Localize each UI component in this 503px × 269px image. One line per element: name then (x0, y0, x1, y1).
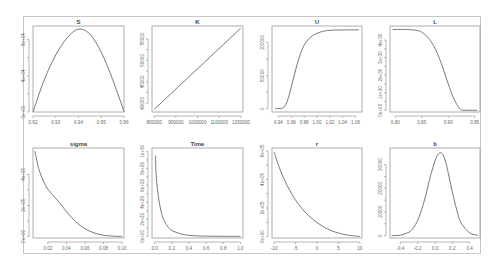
x-tick-label: 0.2 (449, 246, 456, 251)
x-tick-label: 0.96 (287, 120, 296, 125)
y-tick-label: 2e+05 (260, 201, 265, 214)
panel-u: U0.940.960.981.001.021.041.0605000010000… (260, 19, 362, 126)
panel-title: b (433, 141, 437, 147)
y-tick-label: 30000 (378, 158, 383, 171)
x-tick-label: 0.0 (151, 246, 158, 251)
x-tick-label: 0.96 (120, 120, 129, 125)
y-tick-label: 20000 (378, 181, 383, 194)
y-tick-label: 4e+05 (21, 167, 26, 180)
x-tick-label: 0.06 (81, 246, 90, 251)
series-line-s (33, 29, 124, 112)
y-tick-label: 40000 (140, 97, 145, 110)
y-tick-label: 2e+30 (378, 68, 383, 81)
series-line-sigma (35, 151, 122, 236)
panel-sigma: sigma0.020.040.060.080.100e+002e+054e+05 (21, 141, 127, 252)
x-tick-label: 800000 (146, 120, 162, 125)
panel-b: b-0.4-0.20.00.20.40100002000030000 (378, 141, 480, 252)
x-tick-label: 0.2 (169, 246, 176, 251)
y-tick-label: 8e+04 (21, 33, 26, 46)
panel-s: S0.920.930.940.950.960e+004e+048e+04 (21, 19, 129, 126)
y-tick-label: 6e+29 (140, 178, 145, 191)
series-line-l (393, 29, 478, 110)
x-tick-label: -10 (271, 246, 278, 251)
panel-title: S (76, 19, 80, 25)
x-tick-label: 0.93 (51, 120, 60, 125)
y-tick-label: 55000 (140, 32, 145, 45)
x-tick-label: 0.10 (118, 246, 127, 251)
series-line-k (154, 28, 241, 109)
x-tick-label: 0.04 (62, 246, 71, 251)
panel-title: r (316, 141, 319, 147)
x-tick-label: 1.02 (325, 120, 334, 125)
x-tick-label: 10 (357, 246, 363, 251)
plot-box (152, 148, 243, 238)
series-line-u (275, 30, 359, 109)
x-tick-label: 0.98 (300, 120, 309, 125)
x-tick-label: 0.4 (466, 246, 473, 251)
y-tick-label: 4e+05 (260, 173, 265, 186)
plot-box (272, 148, 362, 238)
panel-time: Time0.00.20.40.60.81.00e+002e+294e+296e+… (140, 141, 244, 252)
panel-r: r-10-505100e+002e+054e+056e+05 (260, 141, 363, 252)
panel-title: sigma (70, 141, 88, 147)
panel-title: K (195, 19, 200, 25)
x-tick-label: 0.6 (203, 246, 210, 251)
x-tick-label: 0.95 (97, 120, 106, 125)
panel-l: L0.800.850.900.950e+001e+302e+303e+304e+… (378, 19, 480, 126)
y-tick-label: 0 (260, 107, 265, 110)
y-tick-label: 50000 (140, 54, 145, 67)
series-line-time (155, 156, 240, 237)
x-tick-label: 0.08 (99, 246, 108, 251)
y-tick-label: 0e+00 (378, 103, 383, 116)
x-tick-label: 0.02 (43, 246, 52, 251)
x-tick-label: -0.4 (396, 246, 404, 251)
x-tick-label: 0.8 (220, 246, 227, 251)
x-tick-label: 0.94 (274, 120, 283, 125)
x-tick-label: 1100000 (210, 120, 228, 125)
x-tick-label: 0.90 (444, 120, 453, 125)
x-tick-label: 0.92 (29, 120, 38, 125)
y-tick-label: 4e+29 (140, 195, 145, 208)
panel-k: K800000900000100000011000001200000400004… (140, 19, 250, 126)
y-tick-label: 6e+05 (260, 144, 265, 157)
x-tick-label: 5 (337, 246, 340, 251)
y-tick-label: 100000 (260, 34, 265, 50)
x-tick-label: 0.0 (432, 246, 439, 251)
x-tick-label: 1000000 (189, 120, 207, 125)
y-tick-label: 0e+00 (21, 230, 26, 243)
x-tick-label: 1.04 (338, 120, 347, 125)
y-tick-label: 0e+00 (21, 105, 26, 118)
x-tick-label: -5 (294, 246, 299, 251)
y-tick-label: 0e+00 (140, 229, 145, 242)
x-tick-label: 0 (316, 246, 319, 251)
x-tick-label: 0.80 (391, 120, 400, 125)
series-line-r (274, 152, 360, 236)
x-tick-label: -0.2 (414, 246, 422, 251)
y-tick-label: 1e+30 (378, 86, 383, 99)
y-tick-label: 2e+29 (140, 212, 145, 225)
y-tick-label: 1e+30 (140, 145, 145, 158)
y-tick-label: 4e+04 (21, 69, 26, 82)
x-tick-label: 0.95 (470, 120, 479, 125)
x-tick-label: 1.0 (237, 246, 244, 251)
panel-title: U (315, 19, 319, 25)
y-tick-label: 0e+00 (260, 230, 265, 243)
y-tick-label: 45000 (140, 75, 145, 88)
y-tick-label: 3e+30 (378, 51, 383, 64)
x-tick-label: 900000 (168, 120, 184, 125)
panel-title: Time (191, 141, 206, 147)
x-tick-label: 0.4 (186, 246, 193, 251)
y-tick-label: 8e+29 (140, 161, 145, 174)
x-tick-label: 0.94 (74, 120, 83, 125)
x-tick-label: 1.00 (313, 120, 322, 125)
y-tick-label: 0 (378, 234, 383, 237)
y-tick-label: 2e+05 (21, 199, 26, 212)
y-tick-label: 50000 (260, 69, 265, 82)
plot-box (390, 26, 480, 112)
x-tick-label: 0.85 (417, 120, 426, 125)
series-line-b (392, 153, 479, 236)
plot-box (272, 26, 362, 112)
plot-grid: S0.920.930.940.950.960e+004e+048e+04K800… (0, 0, 503, 269)
x-tick-label: 1.06 (351, 120, 360, 125)
y-tick-label: 4e+30 (378, 33, 383, 46)
